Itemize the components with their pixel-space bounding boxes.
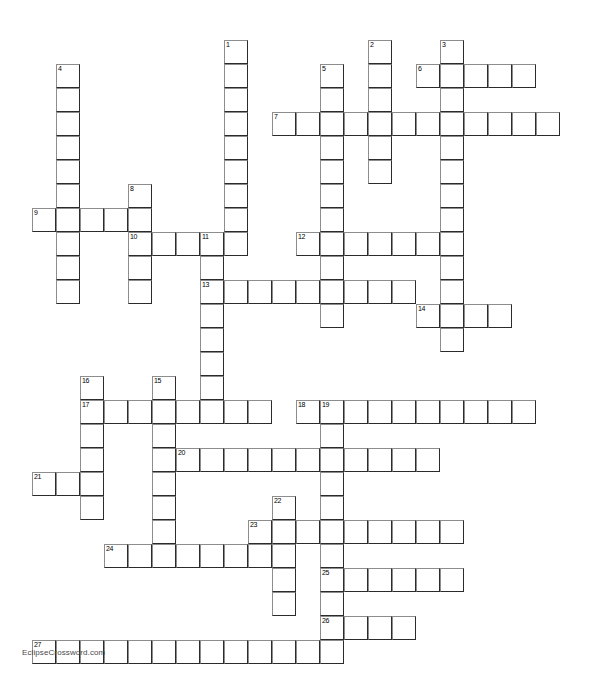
crossword-cell-numbered-11[interactable]: 11 <box>200 232 224 256</box>
crossword-cell-numbered-26[interactable]: 26 <box>320 616 344 640</box>
crossword-cell[interactable] <box>320 448 344 472</box>
crossword-cell[interactable] <box>152 544 176 568</box>
crossword-cell[interactable] <box>272 640 296 664</box>
crossword-cell[interactable] <box>320 280 344 304</box>
crossword-cell[interactable] <box>56 112 80 136</box>
crossword-cell-numbered-23[interactable]: 23 <box>248 520 272 544</box>
crossword-cell[interactable] <box>464 112 488 136</box>
crossword-cell[interactable] <box>152 424 176 448</box>
crossword-cell[interactable] <box>368 520 392 544</box>
crossword-cell[interactable] <box>320 640 344 664</box>
crossword-cell-numbered-9[interactable]: 9 <box>32 208 56 232</box>
crossword-cell[interactable] <box>512 112 536 136</box>
crossword-cell[interactable] <box>224 184 248 208</box>
crossword-cell[interactable] <box>440 280 464 304</box>
crossword-cell[interactable] <box>152 496 176 520</box>
crossword-cell[interactable] <box>272 520 296 544</box>
crossword-cell[interactable] <box>392 400 416 424</box>
crossword-cell[interactable] <box>56 88 80 112</box>
crossword-cell[interactable] <box>152 400 176 424</box>
crossword-cell[interactable] <box>200 400 224 424</box>
crossword-cell[interactable] <box>392 520 416 544</box>
crossword-cell-numbered-22[interactable]: 22 <box>272 496 296 520</box>
crossword-cell[interactable] <box>248 280 272 304</box>
crossword-cell-numbered-2[interactable]: 2 <box>368 40 392 64</box>
crossword-cell[interactable] <box>488 304 512 328</box>
crossword-cell-numbered-13[interactable]: 13 <box>200 280 224 304</box>
crossword-cell[interactable] <box>464 64 488 88</box>
crossword-cell[interactable] <box>224 640 248 664</box>
crossword-cell[interactable] <box>296 280 320 304</box>
crossword-cell[interactable] <box>416 400 440 424</box>
crossword-cell[interactable] <box>416 448 440 472</box>
crossword-cell[interactable] <box>176 232 200 256</box>
crossword-cell[interactable] <box>368 400 392 424</box>
crossword-cell[interactable] <box>296 448 320 472</box>
crossword-cell[interactable] <box>368 280 392 304</box>
crossword-cell[interactable] <box>320 424 344 448</box>
crossword-cell[interactable] <box>464 304 488 328</box>
crossword-cell-numbered-1[interactable]: 1 <box>224 40 248 64</box>
crossword-cell[interactable] <box>416 232 440 256</box>
crossword-cell[interactable] <box>392 616 416 640</box>
crossword-cell[interactable] <box>464 400 488 424</box>
crossword-cell[interactable] <box>104 400 128 424</box>
crossword-cell[interactable] <box>440 304 464 328</box>
crossword-cell[interactable] <box>368 112 392 136</box>
crossword-cell[interactable] <box>440 64 464 88</box>
crossword-cell[interactable] <box>320 496 344 520</box>
crossword-cell[interactable] <box>56 472 80 496</box>
crossword-cell[interactable] <box>224 64 248 88</box>
crossword-cell[interactable] <box>368 616 392 640</box>
crossword-cell[interactable] <box>128 544 152 568</box>
crossword-cell[interactable] <box>152 472 176 496</box>
crossword-cell-numbered-25[interactable]: 25 <box>320 568 344 592</box>
crossword-cell[interactable] <box>368 448 392 472</box>
crossword-cell[interactable] <box>248 544 272 568</box>
crossword-cell[interactable] <box>128 400 152 424</box>
crossword-cell[interactable] <box>368 136 392 160</box>
crossword-cell[interactable] <box>296 520 320 544</box>
crossword-cell[interactable] <box>224 544 248 568</box>
crossword-cell[interactable] <box>368 88 392 112</box>
crossword-cell[interactable] <box>248 640 272 664</box>
crossword-cell[interactable] <box>272 544 296 568</box>
crossword-cell[interactable] <box>344 280 368 304</box>
crossword-cell[interactable] <box>224 280 248 304</box>
crossword-cell[interactable] <box>512 64 536 88</box>
crossword-cell[interactable] <box>488 112 512 136</box>
crossword-cell[interactable] <box>344 112 368 136</box>
crossword-cell[interactable] <box>368 64 392 88</box>
crossword-cell[interactable] <box>320 472 344 496</box>
crossword-cell[interactable] <box>224 88 248 112</box>
crossword-cell[interactable] <box>440 112 464 136</box>
crossword-cell[interactable] <box>224 112 248 136</box>
crossword-cell[interactable] <box>56 184 80 208</box>
crossword-cell-numbered-12[interactable]: 12 <box>296 232 320 256</box>
crossword-cell-numbered-20[interactable]: 20 <box>176 448 200 472</box>
crossword-cell[interactable] <box>488 400 512 424</box>
crossword-cell[interactable] <box>272 592 296 616</box>
crossword-cell[interactable] <box>56 280 80 304</box>
crossword-cell[interactable] <box>224 208 248 232</box>
crossword-cell[interactable] <box>176 544 200 568</box>
crossword-cell[interactable] <box>344 616 368 640</box>
crossword-cell[interactable] <box>224 448 248 472</box>
crossword-cell[interactable] <box>56 232 80 256</box>
crossword-cell[interactable] <box>200 448 224 472</box>
crossword-cell[interactable] <box>224 232 248 256</box>
crossword-cell-numbered-18[interactable]: 18 <box>296 400 320 424</box>
crossword-cell[interactable] <box>152 448 176 472</box>
crossword-cell[interactable] <box>512 400 536 424</box>
crossword-cell[interactable] <box>56 160 80 184</box>
crossword-cell[interactable] <box>224 400 248 424</box>
crossword-cell[interactable] <box>320 232 344 256</box>
crossword-cell[interactable] <box>200 256 224 280</box>
crossword-cell[interactable] <box>392 112 416 136</box>
crossword-cell[interactable] <box>320 256 344 280</box>
crossword-cell[interactable] <box>128 256 152 280</box>
crossword-cell[interactable] <box>80 424 104 448</box>
crossword-cell[interactable] <box>224 160 248 184</box>
crossword-cell[interactable] <box>272 280 296 304</box>
crossword-cell[interactable] <box>440 160 464 184</box>
